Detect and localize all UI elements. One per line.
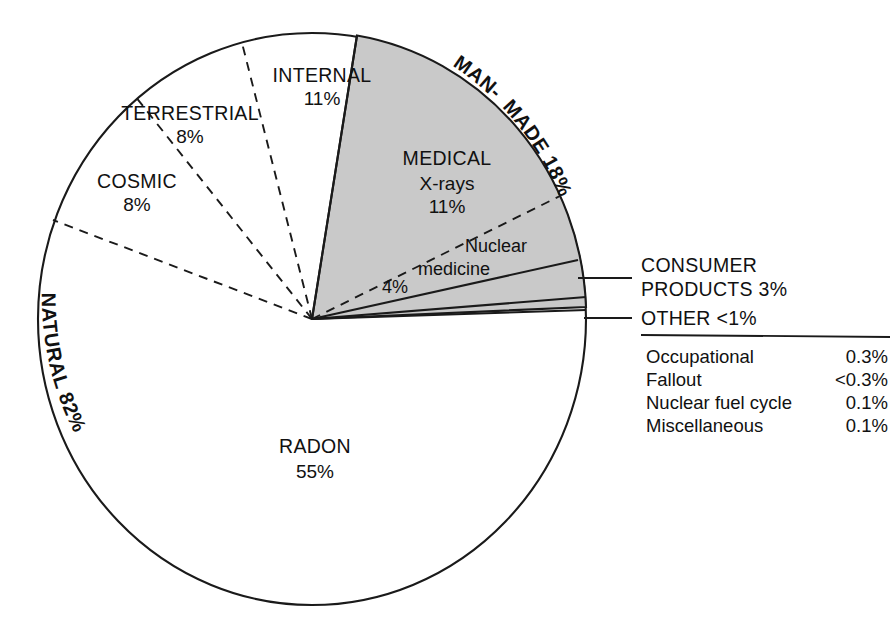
table-row: Miscellaneous 0.1% bbox=[646, 415, 888, 436]
table-cell-label: Occupational bbox=[646, 346, 754, 367]
callout-consumer-line2: PRODUCTS 3% bbox=[641, 278, 787, 300]
callout-consumer-line1: CONSUMER bbox=[641, 254, 757, 276]
table-cell-value: 0.3% bbox=[846, 346, 888, 367]
table-row: Occupational 0.3% bbox=[646, 346, 888, 367]
table-cell-value: <0.3% bbox=[835, 369, 888, 390]
table-cell-value: 0.1% bbox=[846, 415, 888, 436]
slice-label-cosmic: COSMIC bbox=[97, 170, 177, 192]
slice-label-nuclear-medicine-line2: medicine bbox=[418, 259, 490, 279]
slice-label-medical: MEDICAL bbox=[403, 147, 492, 169]
callout-other: OTHER <1% bbox=[641, 307, 757, 329]
slice-label-nuclear-medicine-line1: Nuclear bbox=[465, 236, 527, 256]
slice-label-terrestrial: TERRESTRIAL bbox=[121, 102, 259, 124]
slice-value-nuclear-medicine: 4% bbox=[382, 277, 408, 297]
breakdown-table: Occupational 0.3% Fallout <0.3% Nuclear … bbox=[646, 346, 888, 436]
table-cell-label: Nuclear fuel cycle bbox=[646, 392, 792, 413]
table-cell-label: Miscellaneous bbox=[646, 415, 763, 436]
slice-value-cosmic: 8% bbox=[123, 194, 151, 215]
slice-value-medical: 11% bbox=[429, 196, 466, 217]
table-cell-label: Fallout bbox=[646, 369, 702, 390]
slice-label-radon: RADON bbox=[279, 435, 351, 457]
breakdown-table-rule bbox=[641, 335, 890, 337]
table-row: Fallout <0.3% bbox=[646, 369, 888, 390]
slice-label-internal: INTERNAL bbox=[273, 64, 372, 86]
table-cell-value: 0.1% bbox=[846, 392, 888, 413]
table-row: Nuclear fuel cycle 0.1% bbox=[646, 392, 888, 413]
pie-chart-figure: INTERNAL 11% TERRESTRIAL 8% COSMIC 8% RA… bbox=[0, 0, 895, 626]
slice-value-internal: 11% bbox=[304, 88, 341, 109]
slice-label-medical-xrays: X-rays bbox=[420, 173, 475, 194]
slice-value-terrestrial: 8% bbox=[176, 126, 204, 147]
slice-value-radon: 55% bbox=[296, 461, 334, 482]
